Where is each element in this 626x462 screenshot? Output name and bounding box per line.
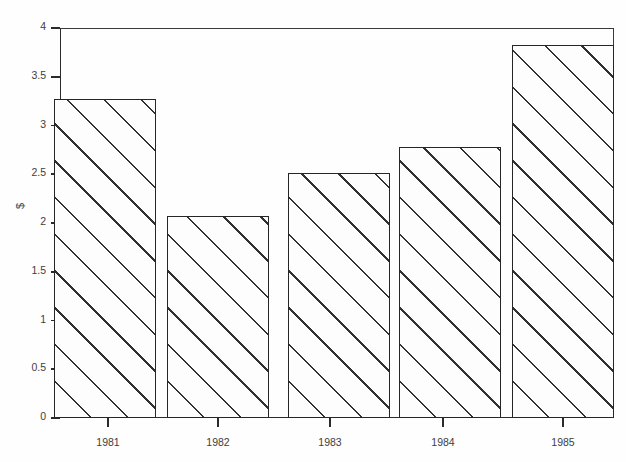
y-tick-label: 0.5 <box>31 361 46 373</box>
y-tick-label: 2 <box>40 215 46 227</box>
y-tick-label: 4 <box>40 20 46 32</box>
y-tick-mark <box>51 76 60 78</box>
y-tick-label: 3 <box>40 118 46 130</box>
x-tick-label: 1985 <box>523 436 603 448</box>
y-tick-label: 3.5 <box>31 69 46 81</box>
y-tick-label: 1.5 <box>31 264 46 276</box>
x-tick-label: 1984 <box>403 436 483 448</box>
x-tick-mark <box>562 418 564 427</box>
bar-1983 <box>288 173 390 418</box>
x-tick-label: 1982 <box>178 436 258 448</box>
x-tick-mark <box>107 418 109 427</box>
y-tick-label: 1 <box>40 313 46 325</box>
bar-1984 <box>399 147 501 418</box>
y-tick-mark <box>51 27 60 29</box>
x-tick-mark <box>329 418 331 427</box>
y-tick-label: 0 <box>40 410 46 422</box>
x-tick-label: 1983 <box>290 436 370 448</box>
y-tick-label: 2.5 <box>31 166 46 178</box>
x-tick-mark <box>217 418 219 427</box>
x-tick-label: 1981 <box>68 436 148 448</box>
bar-1982 <box>167 216 269 418</box>
bar-chart-figure: $ 4 3.5 3 2.5 2 1.5 1 0.5 0 <box>0 0 626 462</box>
bar-1981 <box>54 99 156 418</box>
y-axis-label: $ <box>14 194 26 218</box>
bar-1985 <box>512 45 614 418</box>
x-tick-mark <box>442 418 444 427</box>
